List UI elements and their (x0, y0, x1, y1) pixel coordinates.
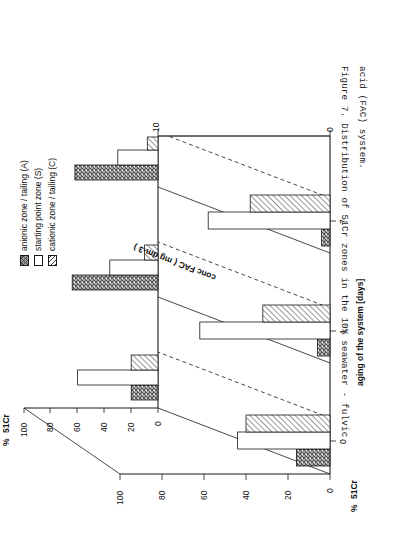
y-axis-label-percent-back: % (2, 438, 11, 446)
legend-item-anionic: anionic zone / tailing (A) (20, 160, 29, 266)
bar-back-d0-A (131, 385, 158, 400)
legend-item-cationic: cationic zone / tailing (C) (48, 158, 57, 266)
bar-front-d1-A (317, 339, 330, 356)
y-axis-tick-back-100: 100 (20, 423, 29, 437)
y-axis-tick-back-60: 60 (73, 423, 82, 432)
legend-swatch-anionic-icon (20, 255, 29, 266)
bar-front-d0-S (238, 432, 330, 449)
legend-swatch-starting-icon (34, 255, 43, 266)
legend-item-starting: starting point zone (S) (34, 168, 43, 266)
bar-back-d0-C (131, 355, 158, 370)
y-axis-tick-back-80: 80 (46, 423, 55, 432)
figure-caption-line1: Figure 7. Distribution of 51Cr zones in … (337, 66, 352, 466)
bar-front-d7-S (208, 212, 330, 229)
y-axis-tick-back-0: 0 (154, 421, 163, 426)
z-axis-tick-0: 0 (326, 127, 335, 132)
legend-label-anionic: anionic zone / tailing (A) (20, 160, 29, 251)
bar-front-d1-S (200, 322, 330, 339)
y-axis-tick-front-80: 80 (158, 491, 167, 500)
bar-front-d0-A (296, 449, 330, 466)
bar-front-d0-C (246, 415, 330, 432)
figure-caption-line2: acid (FAC) system. (355, 66, 370, 466)
bars-back-row (72, 137, 158, 400)
y-axis-tick-front-40: 40 (242, 491, 251, 500)
y-axis-tick-front-20: 20 (284, 491, 293, 500)
bars-front-row (200, 195, 330, 466)
legend-label-starting: starting point zone (S) (34, 168, 43, 251)
bar-back-d7-C (147, 137, 158, 150)
x-ticks-front (330, 221, 336, 441)
y-axis-label-percent-front: % (350, 504, 359, 512)
legend-label-cationic: cationic zone / tailing (C) (48, 158, 57, 251)
bar-front-d7-C (250, 195, 330, 212)
bar-back-d0-S (78, 370, 158, 385)
y-axis-tick-back-20: 20 (127, 423, 136, 432)
y-axis-tick-front-60: 60 (200, 491, 209, 500)
y-axis-tick-front-100: 100 (116, 491, 125, 505)
bar-back-d7-S (118, 150, 158, 165)
bar-back-d1-A (72, 275, 158, 290)
y-axis-label-isotope-back: 51Cr (2, 414, 11, 433)
legend-swatch-cationic-icon (48, 255, 57, 266)
bar-front-d1-C (263, 305, 330, 322)
group-depth-rails (158, 136, 330, 418)
bar-back-d1-S (110, 260, 158, 275)
figure-page: 0 20 40 60 80 100 % 51Cr 0 20 40 60 80 1… (0, 0, 402, 534)
bar-back-d7-A (75, 165, 158, 180)
y-axis-label-isotope-front: 51Cr (350, 480, 359, 499)
z-axis-tick-10: 10 (152, 123, 161, 132)
y-axis-tick-front-0: 0 (326, 488, 335, 493)
bar-front-d7-A (322, 229, 330, 246)
y-axis-tick-back-40: 40 (100, 423, 109, 432)
